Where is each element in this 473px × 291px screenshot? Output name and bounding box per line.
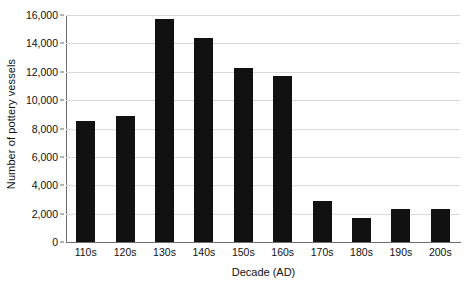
y-tick-mark [60,128,64,129]
x-axis-line [66,242,461,243]
y-tick-label: 10,000 [26,94,58,106]
x-axis-title-text: Decade (AD) [232,266,296,278]
y-axis-title-text: Number of pottery vessels [5,59,17,189]
bar-160s [273,76,292,242]
bar-130s [155,19,174,242]
bar-180s [352,218,371,242]
x-tick-label-150s: 150s [232,246,255,258]
y-tick-mark [60,71,64,72]
y-tick-label: 14,000 [26,37,58,49]
bar-170s [313,201,332,242]
y-tick-mark [60,100,64,101]
y-tick-mark [60,242,64,243]
y-axis-tick-labels: 02,0004,0006,0008,00010,00012,00014,0001… [22,0,64,291]
plot-area [66,15,460,242]
x-tick-label-170s: 170s [311,246,334,258]
x-tick-label-120s: 120s [114,246,137,258]
x-axis-tick-labels: 110s120s130s140s150s160s170s180s190s200s [66,246,461,264]
bar-110s [76,121,95,242]
x-tick-label-180s: 180s [350,246,373,258]
bars-layer [66,15,460,242]
y-tick-label: 6,000 [32,151,58,163]
bar-150s [234,68,253,243]
bar-190s [391,209,410,242]
bar-140s [194,38,213,242]
x-tick-label-140s: 140s [193,246,216,258]
y-tick-mark [60,156,64,157]
y-tick-label: 16,000 [26,9,58,21]
x-tick-label-130s: 130s [153,246,176,258]
y-tick-label: 12,000 [26,66,58,78]
y-tick-mark [60,185,64,186]
y-tick-label: 8,000 [32,123,58,135]
y-axis-title: Number of pottery vessels [0,0,22,248]
bar-chart-figure: Number of pottery vessels 02,0004,0006,0… [0,0,473,291]
bar-120s [116,116,135,242]
y-tick-mark [60,43,64,44]
x-tick-label-200s: 200s [429,246,452,258]
y-tick-mark [60,15,64,16]
y-tick-label: 0 [52,236,58,248]
x-axis-title: Decade (AD) [66,266,461,278]
y-tick-mark [60,213,64,214]
bar-200s [431,209,450,242]
x-tick-label-190s: 190s [390,246,413,258]
y-tick-label: 4,000 [32,179,58,191]
y-tick-label: 2,000 [32,208,58,220]
x-tick-label-160s: 160s [271,246,294,258]
x-tick-label-110s: 110s [75,246,97,258]
